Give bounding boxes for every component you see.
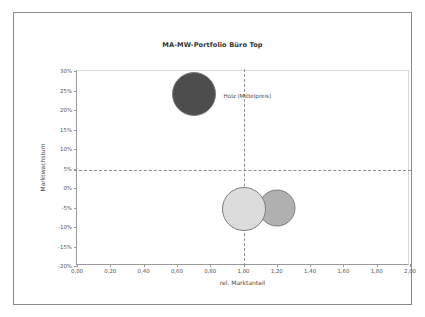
y-tick-label: -20% [58, 263, 72, 269]
y-tick-label: -15% [58, 244, 72, 250]
data-point-label: Holz (Mittelpreis) [224, 93, 272, 99]
x-tick-mark [144, 264, 145, 267]
y-tick-label: 10% [60, 146, 72, 152]
x-tick-mark [110, 264, 111, 267]
x-tick-label: 1,60 [337, 268, 349, 274]
y-tick-mark [74, 227, 77, 228]
x-tick-label: 2,00 [404, 268, 416, 274]
y-tick-label: 15% [60, 127, 72, 133]
y-axis-title: Marktwachstum [38, 70, 48, 265]
y-tick-label: 25% [60, 88, 72, 94]
y-tick-label: -10% [58, 224, 72, 230]
y-tick-mark [74, 188, 77, 189]
y-tick-label: -5% [62, 205, 73, 211]
y-tick-mark [74, 110, 77, 111]
y-tick-label: 30% [60, 68, 72, 74]
chart-frame: MA-MW-Portfolio Büro Top Marktwachstum 3… [13, 12, 412, 305]
x-tick-mark [77, 264, 78, 267]
x-tick-label: 1,40 [304, 268, 316, 274]
x-tick-mark [210, 264, 211, 267]
y-tick-label: 5% [63, 166, 72, 172]
x-tick-mark [310, 264, 311, 267]
y-tick-mark [74, 149, 77, 150]
x-tick-label: 0,80 [204, 268, 216, 274]
chart-title: MA-MW-Portfolio Büro Top [14, 41, 411, 49]
y-tick-label: 0% [63, 185, 72, 191]
plot-area: 30%25%20%15%10%5%0%-5%-10%-15%-20% 0,000… [76, 70, 409, 265]
y-axis-title-text: Marktwachstum [40, 144, 47, 192]
horizontal-reference-line [74, 170, 411, 171]
x-axis-title: rel. Marktanteil [76, 279, 409, 286]
x-tick-mark [177, 264, 178, 267]
x-tick-mark [277, 264, 278, 267]
y-tick-mark [74, 169, 77, 170]
data-point-bubble[interactable] [222, 187, 266, 231]
x-tick-label: 1,20 [271, 268, 283, 274]
x-tick-label: 1,00 [237, 268, 249, 274]
x-tick-mark [343, 264, 344, 267]
y-tick-mark [74, 91, 77, 92]
x-tick-label: 1,80 [371, 268, 383, 274]
x-tick-label: 0,20 [104, 268, 116, 274]
y-tick-label: 20% [60, 107, 72, 113]
x-tick-mark [377, 264, 378, 267]
x-tick-mark [410, 264, 411, 267]
data-point-bubble[interactable] [172, 72, 216, 116]
x-tick-label: 0,60 [171, 268, 183, 274]
y-tick-mark [74, 208, 77, 209]
y-tick-mark [74, 247, 77, 248]
y-tick-mark [74, 130, 77, 131]
y-tick-mark [74, 71, 77, 72]
x-tick-label: 0,00 [71, 268, 83, 274]
x-tick-label: 0,40 [138, 268, 150, 274]
